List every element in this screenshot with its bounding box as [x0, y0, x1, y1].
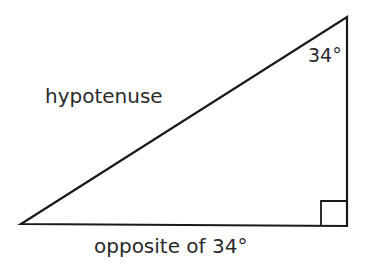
triangle	[21, 17, 347, 226]
angle-label: 34°	[308, 46, 342, 65]
base-label: opposite of 34°	[94, 236, 247, 256]
hypotenuse-label: hypotenuse	[45, 86, 163, 106]
right-angle-marker	[321, 201, 347, 226]
